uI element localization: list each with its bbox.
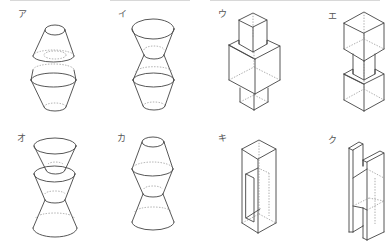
figure-ka: カ [100, 124, 197, 248]
figure-ki: キ [200, 124, 297, 248]
figure-i: イ [100, 0, 197, 120]
stacked-cubes-icon [200, 0, 297, 120]
figure-u: ウ [200, 0, 297, 120]
stacked-cones-icon [100, 0, 197, 120]
figure-o: オ [0, 124, 97, 248]
stacked-cubes-icon [292, 0, 389, 120]
stacked-cones-icon [0, 124, 97, 248]
h-shaped-prism-icon [292, 124, 389, 248]
figure-e: エ [292, 0, 389, 120]
stacked-cones-icon [0, 0, 97, 120]
figure-ku: ク [292, 124, 389, 248]
box-with-window-icon [200, 124, 297, 248]
figure-a: ア [0, 0, 97, 120]
stacked-cones-icon [100, 124, 197, 248]
